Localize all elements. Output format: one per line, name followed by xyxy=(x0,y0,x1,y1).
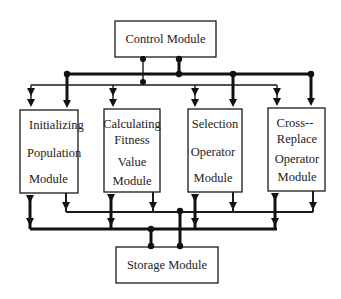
module-line: Calculating xyxy=(103,117,161,131)
control-module: Control Module xyxy=(115,21,216,57)
module-line: Module xyxy=(194,171,233,185)
module-line: Module xyxy=(29,172,68,186)
junction-dot xyxy=(148,243,154,249)
module-line: Operator xyxy=(275,152,320,166)
storage-module-label: Storage Module xyxy=(127,258,208,272)
junction-dot xyxy=(140,56,146,62)
junction-dot xyxy=(176,56,182,62)
module-line: Population xyxy=(27,146,82,160)
module-line: Cross-- xyxy=(277,116,314,130)
module-line: Value xyxy=(118,155,147,169)
junction-dot xyxy=(177,243,183,249)
module-calculating-fitness: Calculating Fitness Value Module xyxy=(103,109,161,192)
module-selection-operator: Selection Operator Module xyxy=(188,109,242,192)
module-line: Selection xyxy=(192,117,239,131)
architecture-diagram: Control Module Storage Module Initializi… xyxy=(0,0,341,299)
control-module-label: Control Module xyxy=(125,32,206,46)
module-line: Initializing xyxy=(29,118,85,132)
module-line: Module xyxy=(278,170,317,184)
module-line: Module xyxy=(113,174,152,188)
module-cross-replace-operator: Cross-- Replace Operator Module xyxy=(268,108,325,191)
junction-dot xyxy=(140,79,146,85)
storage-module: Storage Module xyxy=(116,247,218,283)
module-line: Operator xyxy=(191,145,236,159)
module-initializing-population: Initializing Population Module xyxy=(20,110,85,193)
module-line: Fitness xyxy=(114,133,150,147)
module-line: Replace xyxy=(277,132,318,146)
